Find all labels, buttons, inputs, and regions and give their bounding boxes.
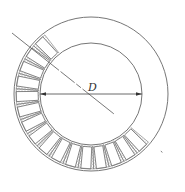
- diagram-canvas: D: [0, 0, 185, 192]
- segment-block: [16, 91, 38, 101]
- diameter-label: D: [87, 81, 97, 94]
- segment-block: [81, 146, 92, 169]
